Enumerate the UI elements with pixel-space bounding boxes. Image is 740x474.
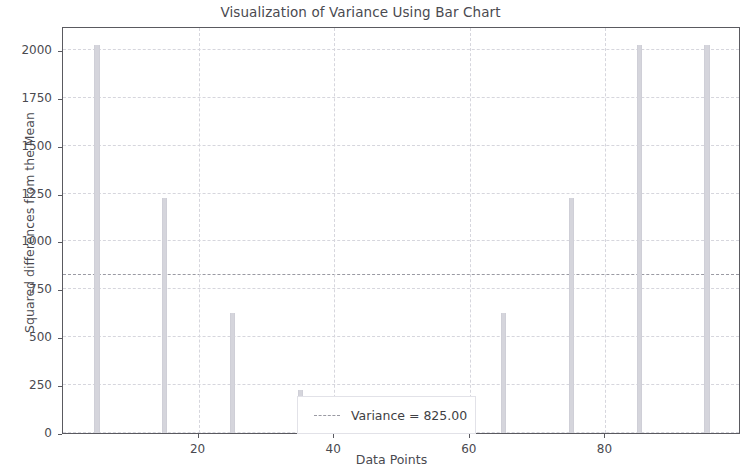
bar [501,313,507,433]
x-tick-mark [469,434,470,438]
x-axis-label: Data Points [62,452,721,467]
y-tick-mark [58,242,62,243]
bar [94,45,100,433]
x-tick-mark [198,434,199,438]
bar [704,45,710,433]
x-tick-mark [604,434,605,438]
y-tick-mark [58,195,62,196]
y-tick-mark [58,51,62,52]
y-tick-mark [58,290,62,291]
x-gridline [605,28,606,433]
x-gridline [334,28,335,433]
bar [230,313,236,433]
y-tick-label: 2000 [0,43,52,57]
chart-legend: Variance = 825.00 [297,396,476,434]
y-axis-label: Squared differences from the Mean [22,98,37,348]
x-gridline [470,28,471,433]
y-tick-label: 0 [0,426,52,440]
y-tick-label: 250 [0,378,52,392]
legend-dashed-line-icon [314,415,340,416]
y-tick-mark [58,386,62,387]
y-tick-mark [58,434,62,435]
y-tick-mark [58,147,62,148]
bar [569,198,575,433]
y-tick-mark [58,338,62,339]
chart-title: Visualization of Variance Using Bar Char… [0,4,721,20]
x-gridline [199,28,200,433]
bar [162,198,168,433]
legend-label: Variance = 825.00 [351,408,467,423]
y-tick-mark [58,99,62,100]
plot-area [62,27,740,434]
x-tick-mark [333,434,334,438]
bar [637,45,643,433]
